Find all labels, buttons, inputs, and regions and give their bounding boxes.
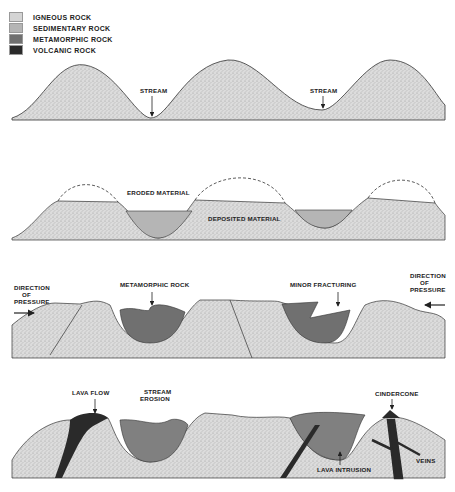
panel-1-terrain: [12, 60, 445, 120]
cindercone-label: CINDERCONE: [375, 390, 419, 397]
direction-right-label: DIRECTION OF PRESSURE: [410, 272, 448, 293]
eroded-material-label: ERODED MATERIAL: [127, 189, 190, 196]
panel-2-erosion-deposition: ERODED MATERIAL DEPOSITED MATERIAL: [12, 178, 445, 240]
stream-right-label: STREAM: [310, 87, 337, 94]
lava-intrusion-label: LAVA INTRUSION: [317, 466, 372, 473]
panel-3-terrain: [12, 300, 445, 358]
direction-left-label: DIRECTION OF PRESSURE: [14, 284, 52, 305]
veins-label: VEINS: [416, 457, 436, 464]
stream-erosion-label: STREAM EROSION: [140, 388, 173, 402]
panel-4-volcanism: LAVA FLOW STREAM EROSION CINDERCONE LAVA…: [12, 388, 445, 478]
geology-diagram: STREAM STREAM ERODED MATERIAL DEPOSITED …: [0, 0, 455, 492]
cindercone-icon: [382, 410, 400, 418]
panel-3-metamorphism: DIRECTION OF PRESSURE METAMORPHIC ROCK M…: [12, 272, 448, 358]
stream-left-label: STREAM: [140, 87, 167, 94]
panel-1-stream-valleys: STREAM STREAM: [12, 60, 445, 120]
lava-flow-label: LAVA FLOW: [72, 389, 109, 396]
minor-fracturing-label: MINOR FRACTURING: [290, 281, 356, 288]
deposited-material-label: DEPOSITED MATERIAL: [208, 215, 281, 222]
metamorphic-rock-label: METAMORPHIC ROCK: [120, 281, 190, 288]
